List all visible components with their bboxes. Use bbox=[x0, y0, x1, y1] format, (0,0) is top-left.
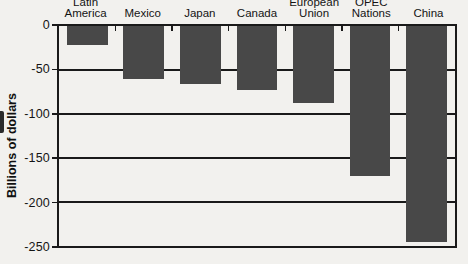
y-tick-label--200: -200 bbox=[8, 195, 50, 211]
category-label-line: Mexico bbox=[114, 8, 171, 19]
category-boundary-tick bbox=[398, 26, 400, 31]
plot-area bbox=[57, 24, 457, 248]
y-tick-label-0: 0 bbox=[8, 17, 50, 33]
bar-latin-america bbox=[67, 26, 108, 45]
scan-artifact-mark bbox=[0, 111, 4, 133]
category-label-line: Japan bbox=[171, 8, 228, 19]
category-label-line: China bbox=[400, 8, 457, 19]
y-tick-label--100: -100 bbox=[8, 106, 50, 122]
gridline--100 bbox=[59, 113, 455, 115]
bar-european-union bbox=[293, 26, 334, 103]
y-tick-label--50: -50 bbox=[8, 61, 50, 77]
bar-japan bbox=[180, 26, 221, 84]
y-tick-label--250: -250 bbox=[8, 239, 50, 255]
bar-opec-nations bbox=[350, 26, 391, 176]
category-boundary-tick bbox=[341, 26, 343, 31]
category-label-latin-america: LatinAmerica bbox=[57, 0, 114, 19]
category-label-line: Nations bbox=[343, 8, 400, 19]
category-boundary-tick bbox=[115, 26, 117, 31]
bar-mexico bbox=[123, 26, 164, 79]
category-boundary-tick bbox=[228, 26, 230, 31]
category-label-european-union: EuropeanUnion bbox=[286, 0, 343, 19]
category-label-opec-nations: OPECNations bbox=[343, 0, 400, 19]
category-label-line: Canada bbox=[228, 8, 285, 19]
bar-canada bbox=[237, 26, 278, 90]
chart-figure: Billions of dollars 0-50-100-150-200-250… bbox=[0, 0, 468, 264]
gridline--200 bbox=[59, 201, 455, 203]
category-boundary-tick bbox=[285, 26, 287, 31]
category-boundary-tick bbox=[171, 26, 173, 31]
y-tick-label--150: -150 bbox=[8, 150, 50, 166]
category-label-line: America bbox=[57, 8, 114, 19]
category-label-line: Union bbox=[286, 8, 343, 19]
gridline--150 bbox=[59, 157, 455, 159]
category-label-china: China bbox=[400, 0, 457, 19]
category-label-japan: Japan bbox=[171, 0, 228, 19]
category-label-canada: Canada bbox=[228, 0, 285, 19]
category-label-mexico: Mexico bbox=[114, 0, 171, 19]
bar-china bbox=[406, 26, 447, 242]
